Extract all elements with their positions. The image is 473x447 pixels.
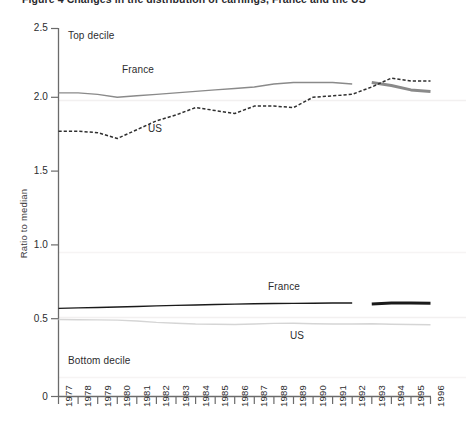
x-tick-label-1981: 1981 [141,385,152,407]
series-line-france-top-seg1 [372,83,431,92]
x-tick-label-1988: 1988 [278,385,289,407]
x-tick-label-1979: 1979 [102,385,113,407]
figure-container: Figure 4 Changes in the distribution of … [0,0,473,447]
x-tick-label-1984: 1984 [200,385,211,407]
series-label-france-top: France [122,64,154,75]
x-tick-label-1991: 1991 [337,385,348,407]
series-line-france-bottom-seg1 [372,303,431,304]
x-tick-label-1977: 1977 [63,385,74,407]
x-tick-label-1990: 1990 [317,385,328,407]
chart-plot-area [0,0,473,447]
x-tick-label-1993: 1993 [376,385,387,407]
x-tick-label-1982: 1982 [160,385,171,407]
x-tick-label-1996: 1996 [435,385,446,407]
x-tick-label-1992: 1992 [356,385,367,407]
x-tick-label-1989: 1989 [297,385,308,407]
series-line-france-top-seg0 [59,83,353,98]
x-tick-label-1987: 1987 [258,385,269,407]
x-tick-label-1994: 1994 [395,385,406,407]
series-line-france-bottom-seg0 [59,303,353,308]
y-axis-ticks [51,29,58,397]
x-tick-label-1986: 1986 [239,385,250,407]
x-tick-label-1985: 1985 [219,385,230,407]
region-label-top-decile: Top decile [68,30,115,41]
x-tick-label-1978: 1978 [82,385,93,407]
series-label-us-top: US [148,123,162,134]
x-tick-label-1980: 1980 [121,385,132,407]
series-label-us-bottom: US [290,330,304,341]
series-line-us-bottom-seg0 [59,320,431,325]
x-tick-label-1983: 1983 [180,385,191,407]
x-tick-label-1995: 1995 [415,385,426,407]
data-series-layer [59,78,431,325]
region-label-bottom-decile: Bottom decile [68,355,131,366]
series-label-france-bottom: France [268,281,300,292]
